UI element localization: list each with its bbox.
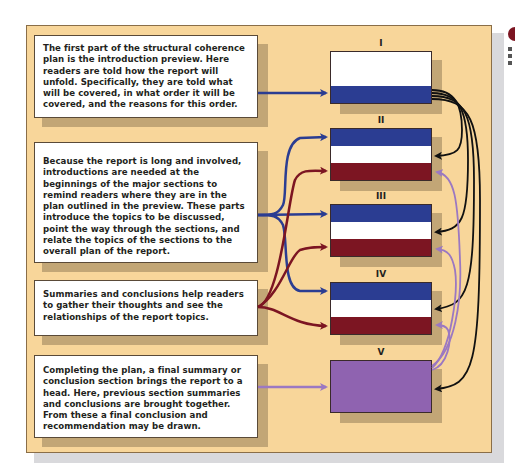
summary-arrows <box>258 171 326 326</box>
cropped-text-line <box>508 54 512 58</box>
connection-arrows <box>0 0 523 474</box>
cropped-text-line <box>508 47 512 51</box>
intro-arrows <box>258 137 326 291</box>
cropped-margin-marker <box>504 27 523 87</box>
cropped-heading-glyph <box>508 27 522 41</box>
cropped-text-line <box>508 61 512 65</box>
final-link-arrows <box>432 172 460 370</box>
preview-link-arrows <box>432 90 480 389</box>
